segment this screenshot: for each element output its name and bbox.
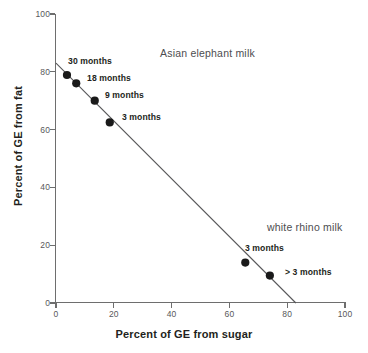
white-rhino-milk-label: white rhino milk [267, 221, 343, 233]
data-point [72, 79, 80, 87]
point-label: 3 months [122, 112, 161, 122]
data-point [266, 271, 274, 279]
chart-figure: 020406080100 020406080100 30 months18 mo… [0, 0, 368, 353]
point-label: 18 months [87, 73, 131, 83]
point-label: 30 months [68, 56, 112, 66]
data-point [91, 97, 99, 105]
data-point [106, 118, 114, 126]
point-label: 3 months [245, 243, 284, 253]
asian-elephant-milk-label: Asian elephant milk [160, 47, 255, 59]
point-label: 9 months [105, 90, 144, 100]
y-axis-title: Percent of GE from fat [12, 66, 24, 226]
x-axis-title: Percent of GE from sugar [0, 328, 368, 340]
data-point [241, 258, 249, 266]
point-label: > 3 months [285, 267, 332, 277]
data-point [63, 71, 71, 79]
